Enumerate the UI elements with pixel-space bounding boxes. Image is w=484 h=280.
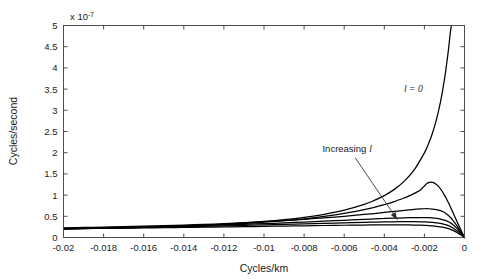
x-tick-label: 0 — [462, 242, 467, 253]
x-tick-label: -0.016 — [130, 242, 157, 253]
y-tick-label: 0.5 — [44, 211, 57, 222]
y-tick-label: 2 — [52, 147, 57, 158]
x-tick-label: -0.02 — [53, 242, 75, 253]
y-tick-label: 4 — [52, 62, 57, 73]
x-tick-label: -0.018 — [90, 242, 117, 253]
x-tick-label: -0.008 — [291, 242, 318, 253]
y-tick-label: 0 — [52, 232, 57, 243]
y-axis-ticks — [64, 26, 465, 238]
chart-figure: -0.02-0.018-0.016-0.014-0.012-0.01-0.008… — [0, 0, 484, 280]
x-axis-title: Cycles/km — [240, 262, 289, 274]
x-tick-label: -0.01 — [253, 242, 275, 253]
x-tick-label: -0.014 — [170, 242, 197, 253]
annotation-increasing-l: Increasingl — [322, 143, 372, 154]
x-tick-label: -0.004 — [371, 242, 398, 253]
y-tick-label: 3 — [52, 105, 57, 116]
curve-l-0 — [64, 26, 452, 229]
x-axis-tick-labels: -0.02-0.018-0.016-0.014-0.012-0.01-0.008… — [53, 242, 467, 253]
x-tick-label: -0.012 — [210, 242, 237, 253]
y-tick-label: 1 — [52, 190, 57, 201]
x-tick-label: -0.002 — [411, 242, 438, 253]
x-axis-ticks — [64, 26, 465, 238]
x-tick-label: -0.006 — [331, 242, 358, 253]
y-tick-label: 1.5 — [44, 168, 57, 179]
axes-frame — [64, 26, 465, 238]
y-tick-label: 5 — [52, 20, 57, 31]
y-tick-label: 2.5 — [44, 126, 57, 137]
y-axis-tick-labels: 00.511.522.533.544.55 — [44, 20, 57, 243]
y-axis-exponent: x 10-7 — [70, 11, 94, 23]
y-axis-title: Cycles/second — [7, 97, 19, 165]
y-tick-label: 4.5 — [44, 41, 57, 52]
y-tick-label: 3.5 — [44, 84, 57, 95]
annotation-l-equals-zero: l = 0 — [404, 84, 423, 94]
chart-canvas: -0.02-0.018-0.016-0.014-0.012-0.01-0.008… — [0, 0, 484, 280]
curves-group — [64, 26, 465, 238]
